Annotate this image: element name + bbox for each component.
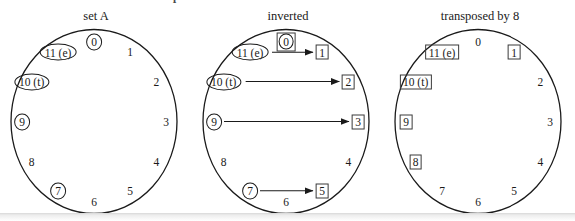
pitch-class-7: 7 (438, 185, 446, 197)
pitch-class-4: 4 (153, 156, 161, 168)
pitch-class-label: 7 (438, 185, 446, 197)
pitch-class-label: 1 (316, 45, 329, 60)
pitch-class-0: 0 (86, 33, 102, 50)
pitch-class-label: 10 (t) (14, 73, 49, 90)
diagram-panel-transposed: transposed by 8 012345678910 (t)11 (e) (384, 0, 575, 221)
pitch-class-6: 6 (474, 196, 482, 208)
pitch-class-label: 8 (409, 154, 422, 169)
pitch-class-0: 0 (277, 32, 296, 51)
pitch-class-2: 2 (342, 74, 355, 89)
pitch-class-2: 2 (537, 76, 545, 88)
pitch-class-label: 0 (279, 34, 294, 50)
panel-title-set-a: set A (0, 9, 192, 23)
pitch-class-label: 0 (474, 36, 482, 48)
diagram-panel-inverted: inverted 012345678910 (t)11 (e) (192, 0, 384, 221)
pitch-class-label: 2 (342, 74, 355, 89)
pitch-class-7: 7 (50, 182, 66, 199)
pitch-class-3: 3 (546, 116, 554, 128)
clock-circle (11, 30, 177, 214)
pitch-class-label: 11 (e) (425, 45, 459, 60)
pitch-class-label: 4 (153, 156, 161, 168)
pitch-class-1: 1 (126, 46, 134, 58)
pitch-class-10: 10 (t) (206, 73, 241, 90)
pitch-class-label: 6 (90, 196, 98, 208)
pitch-class-label: 10 (t) (399, 74, 431, 89)
pitch-class-label: 1 (126, 46, 134, 58)
pitch-class-label: 7 (50, 182, 66, 199)
pitch-class-3: 3 (352, 114, 365, 129)
pitch-class-label: 8 (220, 156, 228, 168)
pitch-class-label: 10 (t) (206, 73, 241, 90)
pitch-class-5: 5 (510, 185, 518, 197)
pitch-class-label: 8 (28, 156, 36, 168)
pitch-class-label: 2 (153, 76, 161, 88)
pitch-class-9: 9 (206, 113, 222, 130)
pitch-class-4: 4 (345, 156, 353, 168)
pitch-class-8: 8 (220, 156, 228, 168)
pitch-class-4: 4 (537, 156, 545, 168)
pitch-class-11: 11 (e) (232, 44, 269, 61)
pitch-class-label: 3 (546, 116, 554, 128)
panel-title-inverted: inverted (192, 9, 384, 23)
clock-face-inverted: 012345678910 (t)11 (e) (202, 29, 370, 214)
pitch-class-10: 10 (t) (399, 74, 431, 89)
pitch-class-3: 3 (162, 116, 170, 128)
pitch-class-label: 3 (162, 116, 170, 128)
pitch-class-label: 0 (86, 33, 102, 50)
clock-circle (395, 30, 561, 214)
pitch-class-2: 2 (153, 76, 161, 88)
panel-title-transposed: transposed by 8 (384, 9, 575, 23)
pitch-class-1: 1 (316, 45, 329, 60)
pitch-class-label: 5 (316, 183, 329, 198)
pitch-class-7: 7 (242, 182, 258, 199)
pitch-class-label: 4 (345, 156, 353, 168)
pitch-class-label: 6 (282, 196, 290, 208)
pitch-class-5: 5 (126, 185, 134, 197)
pitch-class-label: 5 (126, 185, 134, 197)
clock-outline-svg (394, 29, 562, 214)
pitch-class-1: 1 (508, 45, 521, 60)
pitch-class-box-marker: 0 (277, 32, 296, 51)
clock-outline-svg (10, 29, 178, 214)
pitch-class-label: 3 (352, 114, 365, 129)
pitch-class-label: 9 (206, 113, 222, 130)
pitch-class-label: 11 (e) (40, 44, 77, 61)
pitch-class-10: 10 (t) (14, 73, 49, 90)
clock-outline-svg (202, 29, 370, 214)
pitch-class-label: 2 (537, 76, 545, 88)
page-edge-strip (0, 213, 575, 221)
pitch-class-0: 0 (474, 36, 482, 48)
pitch-class-9: 9 (14, 113, 30, 130)
pitch-class-11: 11 (e) (40, 44, 77, 61)
diagram-panel-set-a: set A 012345678910 (t)11 (e) (0, 0, 192, 221)
pitch-class-5: 5 (316, 183, 329, 198)
pitch-class-6: 6 (90, 196, 98, 208)
pitch-class-8: 8 (409, 154, 422, 169)
pitch-class-label: 5 (510, 185, 518, 197)
pitch-class-label: 11 (e) (232, 44, 269, 61)
pitch-class-label: 1 (508, 45, 521, 60)
pitch-class-11: 11 (e) (425, 45, 459, 60)
pitch-class-label: 4 (537, 156, 545, 168)
pitch-class-label: 9 (400, 114, 413, 129)
clock-face-transposed: 012345678910 (t)11 (e) (394, 29, 562, 214)
clock-face-set-a: 012345678910 (t)11 (e) (10, 29, 178, 214)
pitch-class-8: 8 (28, 156, 36, 168)
pitch-class-9: 9 (400, 114, 413, 129)
pitch-class-label: 9 (14, 113, 30, 130)
pitch-class-label: 6 (474, 196, 482, 208)
pitch-class-label: 7 (242, 182, 258, 199)
pitch-class-6: 6 (282, 196, 290, 208)
